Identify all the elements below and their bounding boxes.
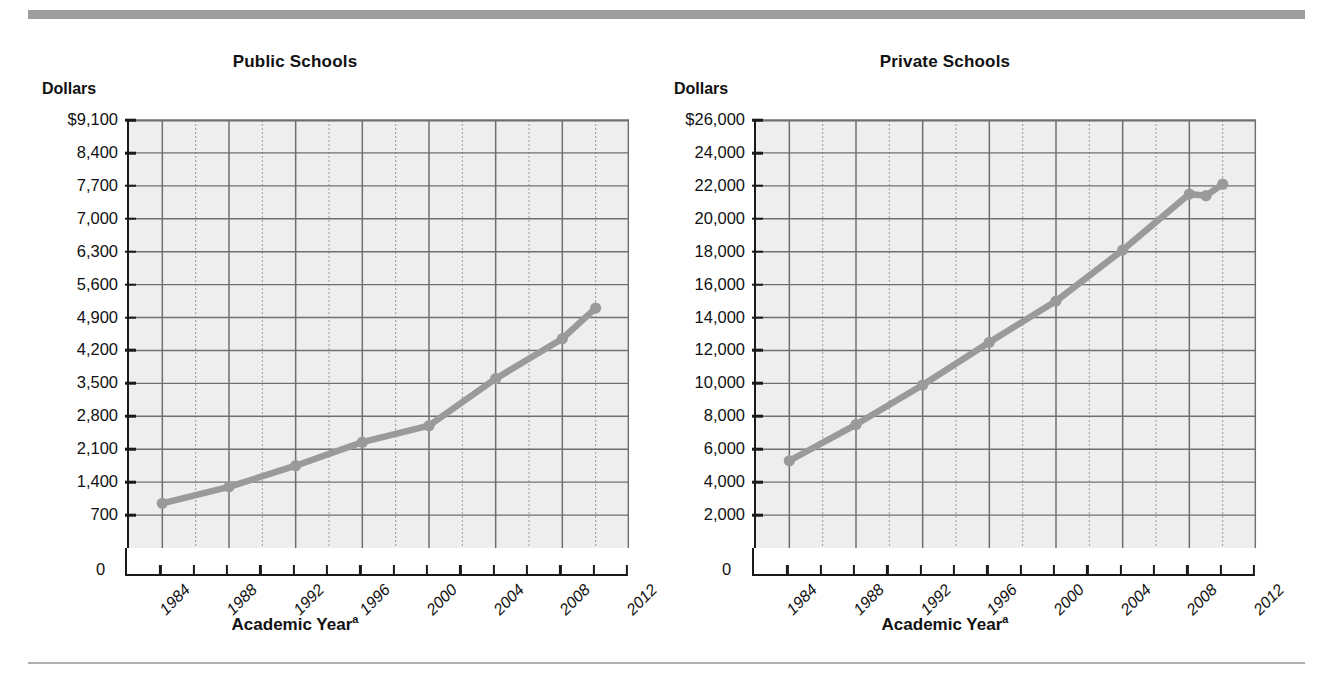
series-marker	[357, 437, 368, 448]
y-tick-mark	[125, 217, 136, 220]
series-marker	[784, 455, 795, 466]
y-tick-label: $26,000	[685, 111, 745, 128]
x-tick-mark	[786, 565, 788, 576]
y-tick-mark	[752, 250, 763, 253]
series-marker	[290, 460, 301, 471]
y-tick-mark	[752, 316, 763, 319]
series-svg-public	[129, 120, 629, 548]
y-axis-unit-public: Dollars	[42, 80, 96, 98]
y-axis-stem-public	[125, 548, 128, 576]
x-tick-mark	[1253, 565, 1255, 576]
y-tick-label: 20,000	[695, 210, 745, 227]
x-tick-mark	[1120, 565, 1122, 576]
x-tick-mark	[426, 565, 428, 576]
y-tick-mark	[125, 316, 136, 319]
y-tick-mark	[752, 119, 763, 122]
series-marker	[223, 481, 234, 492]
x-tick-mark	[820, 565, 822, 576]
x-tick-mark	[920, 565, 922, 576]
x-axis-footnote-public: a	[352, 613, 358, 625]
series-marker	[490, 373, 501, 384]
y-tick-mark	[125, 250, 136, 253]
series-marker	[157, 498, 168, 509]
y-tick-mark	[752, 217, 763, 220]
y-tick-mark	[125, 349, 136, 352]
series-marker	[917, 379, 928, 390]
y-tick-mark	[752, 185, 763, 188]
plot-canvas-private	[754, 120, 1254, 548]
y-tick-mark	[125, 415, 136, 418]
y-tick-mark	[125, 152, 136, 155]
x-tick-mark	[1086, 565, 1088, 576]
y-tick-mark	[125, 283, 136, 286]
series-marker	[423, 420, 434, 431]
x-tick-mark	[1053, 565, 1055, 576]
y-tick-label: 18,000	[695, 243, 745, 259]
x-axis-footnote-private: a	[1002, 613, 1008, 625]
x-tick-mark	[626, 565, 628, 576]
y-tick-label: 6,000	[704, 441, 745, 458]
x-tick-mark	[393, 565, 395, 576]
y-tick-mark	[125, 382, 136, 385]
chart-panel-public: Public Schools Dollars 7001,4002,1002,80…	[0, 0, 666, 680]
y-tick-mark	[752, 514, 763, 517]
y-tick-label: 8,400	[77, 144, 118, 161]
x-tick-mark	[326, 565, 328, 576]
x-tick-mark	[526, 565, 528, 576]
x-tick-mark	[593, 565, 595, 576]
x-tick-mark	[1020, 565, 1022, 576]
plot-area-public: 7001,4002,1002,8003,5004,2004,9005,6006,…	[127, 120, 627, 548]
chart-title-private: Private Schools	[612, 52, 1278, 72]
y-axis-unit-private: Dollars	[674, 80, 728, 98]
bottom-divider-rule	[28, 662, 1305, 664]
x-tick-mark	[853, 565, 855, 576]
plot-canvas-public	[127, 120, 627, 548]
y-tick-label: 2,800	[77, 408, 118, 425]
series-svg-private	[756, 120, 1256, 548]
y-tick-label: 5,600	[77, 276, 118, 293]
y-tick-mark	[125, 448, 136, 451]
y-tick-label: 22,000	[695, 177, 745, 194]
x-tick-mark	[953, 565, 955, 576]
y-tick-mark	[752, 448, 763, 451]
y-origin-label-private: 0	[722, 560, 731, 579]
x-axis-label-private: Academic Yeara	[612, 613, 1278, 635]
series-marker	[1184, 188, 1195, 199]
x-tick-mark	[1186, 565, 1188, 576]
y-tick-label: 2,100	[77, 441, 118, 458]
x-tick-mark	[193, 565, 195, 576]
x-tick-mark	[1153, 565, 1155, 576]
y-tick-label: 6,300	[77, 243, 118, 259]
series-marker	[1200, 190, 1211, 201]
y-tick-mark	[752, 415, 763, 418]
x-axis-line-private	[752, 574, 1254, 577]
chart-panel-private: Private Schools Dollars 2,0004,0006,0008…	[640, 0, 1306, 680]
x-tick-mark	[459, 565, 461, 576]
x-axis-label-text-public: Academic Year	[232, 615, 353, 634]
y-tick-mark	[125, 185, 136, 188]
y-tick-label: 700	[90, 506, 118, 523]
y-tick-label: 4,200	[77, 342, 118, 359]
x-axis-line-public	[125, 574, 627, 577]
series-marker	[1217, 179, 1228, 190]
x-tick-mark	[493, 565, 495, 576]
y-tick-label: 2,000	[704, 506, 745, 523]
y-tick-label: 1,400	[77, 474, 118, 491]
x-tick-mark	[359, 565, 361, 576]
y-tick-label: 4,000	[704, 474, 745, 491]
x-tick-mark	[259, 565, 261, 576]
x-tick-mark	[886, 565, 888, 576]
series-line	[162, 308, 595, 503]
y-tick-mark	[752, 349, 763, 352]
y-origin-label-public: 0	[96, 560, 105, 579]
plot-area-private: 2,0004,0006,0008,00010,00012,00014,00016…	[754, 120, 1254, 548]
y-tick-label: $9,100	[68, 111, 118, 128]
series-marker	[590, 303, 601, 314]
x-tick-mark	[293, 565, 295, 576]
y-tick-mark	[125, 481, 136, 484]
y-tick-label: 4,900	[77, 309, 118, 326]
y-tick-label: 10,000	[695, 375, 745, 392]
y-tick-label: 12,000	[695, 342, 745, 359]
y-axis-stem-private	[752, 548, 755, 576]
y-tick-label: 16,000	[695, 276, 745, 293]
